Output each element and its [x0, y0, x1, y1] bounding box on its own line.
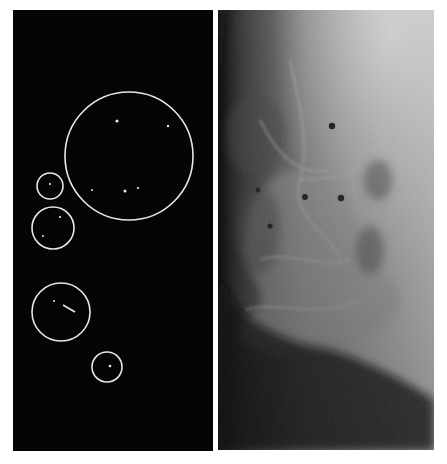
calcification-dot [59, 216, 61, 218]
lesion-spot [267, 223, 272, 228]
detection-map-canvas [13, 10, 213, 451]
lesion-spot [338, 195, 344, 201]
calcification-dot [137, 187, 139, 189]
mammogram-panel [218, 10, 434, 450]
calcification-dot [42, 235, 44, 237]
detection-circle [65, 92, 193, 220]
calcification-dot [49, 183, 51, 185]
detection-circle [37, 173, 63, 199]
calcification-dot [167, 125, 169, 127]
calcification-dot [124, 190, 127, 193]
calcification-dot [109, 365, 112, 368]
lesion-spot [329, 123, 335, 129]
detection-map-panel [13, 10, 213, 451]
calcification-dot [115, 119, 118, 122]
mammogram-image [218, 10, 434, 450]
detection-circle [32, 207, 74, 249]
detection-circle [92, 352, 122, 382]
calcification-dot [91, 189, 93, 191]
calcification-dot [53, 300, 55, 302]
lesion-spot [302, 194, 308, 200]
detection-circle [32, 283, 90, 341]
lesion-spot [256, 188, 261, 193]
linear-calcification [63, 305, 75, 312]
